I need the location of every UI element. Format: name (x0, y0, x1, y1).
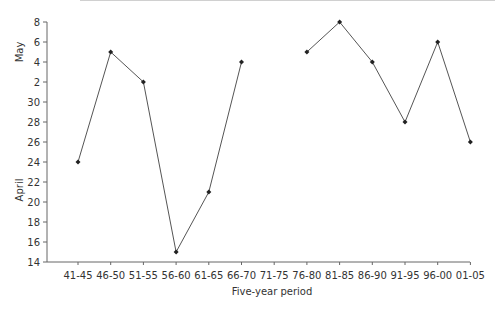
x-tick-label: 91-95 (390, 270, 419, 281)
x-axis-title: Five-year period (232, 286, 313, 297)
series-line (78, 52, 242, 252)
x-tick-label: 56-60 (162, 270, 191, 281)
data-point-marker (174, 250, 179, 255)
x-tick-label: 41-45 (63, 270, 92, 281)
y-tick-label: 18 (27, 217, 40, 228)
y-tick-label: 22 (27, 177, 40, 188)
y-tick-label: 26 (27, 137, 40, 148)
data-point-marker (403, 120, 408, 125)
y-axis-title-may: May (14, 42, 25, 63)
y-tick-label: 28 (27, 117, 40, 128)
data-point-marker (468, 140, 473, 145)
x-tick-label: 86-90 (358, 270, 387, 281)
y-tick-label: 2 (34, 77, 40, 88)
x-tick-label: 46-50 (96, 270, 125, 281)
y-tick-label: 4 (34, 57, 40, 68)
line-chart: 864230282624222018161441-4546-5051-5556-… (0, 0, 495, 311)
y-axis-title-april: April (14, 179, 25, 202)
x-tick-label: 61-65 (194, 270, 223, 281)
x-tick-label: 66-70 (227, 270, 256, 281)
y-tick-label: 16 (27, 237, 40, 248)
y-tick-label: 14 (27, 257, 40, 268)
data-point-marker (206, 190, 211, 195)
series-line (307, 22, 471, 142)
y-tick-label: 6 (34, 37, 40, 48)
x-tick-label: 81-85 (325, 270, 354, 281)
y-tick-label: 20 (27, 197, 40, 208)
x-tick-label: 71-75 (260, 270, 289, 281)
x-tick-label: 76-80 (292, 270, 321, 281)
data-point-marker (76, 160, 81, 165)
y-tick-label: 24 (27, 157, 40, 168)
data-point-marker (239, 60, 244, 65)
data-point-marker (435, 40, 440, 45)
x-tick-label: 96-00 (423, 270, 452, 281)
x-tick-label: 51-55 (129, 270, 158, 281)
y-tick-label: 30 (27, 97, 40, 108)
x-tick-label: 01-05 (456, 270, 485, 281)
y-tick-label: 8 (34, 17, 40, 28)
